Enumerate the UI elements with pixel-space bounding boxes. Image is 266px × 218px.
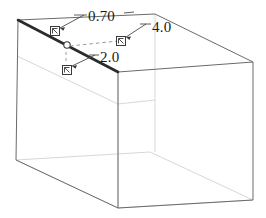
pick-square-icon[interactable]: [51, 27, 60, 36]
pick-square-icon[interactable]: [63, 66, 72, 75]
dimension-callout-length[interactable]: 4.0: [117, 19, 172, 46]
hidden-construction-lines: [16, 14, 253, 208]
dimension-callout-thickness[interactable]: 0.70: [51, 8, 135, 36]
wireframe-box-scene: 0.70 4.0 2: [0, 0, 266, 218]
drawing-canvas: 0.70 4.0 2: [0, 0, 266, 218]
box-visible-edges: [16, 14, 253, 208]
leader-line-length: [126, 24, 151, 40]
dashed-association-line: [70, 41, 118, 46]
dimension-label-length[interactable]: 4.0: [152, 19, 171, 35]
pick-square-icon[interactable]: [117, 37, 126, 46]
dimension-callout-width[interactable]: 2.0: [63, 49, 120, 75]
dimension-label-thickness[interactable]: 0.70: [88, 8, 115, 24]
dimension-label-width[interactable]: 2.0: [100, 49, 119, 65]
leader-line-width: [72, 55, 99, 69]
selected-vertex-marker[interactable]: [64, 42, 70, 48]
